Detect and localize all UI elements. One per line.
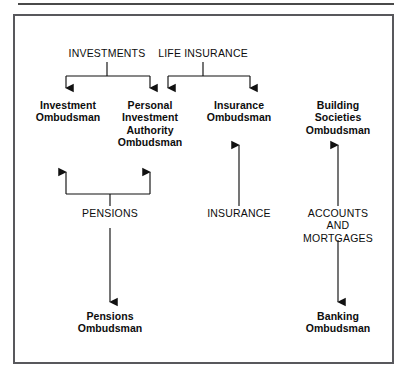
connector-pensions-branch-up — [66, 172, 150, 206]
node-investment-ombudsman: Investment Ombudsman — [36, 99, 101, 124]
node-insurance-ombudsman: Insurance Ombudsman — [207, 99, 272, 124]
category-label-insurance: INSURANCE — [207, 207, 271, 219]
category-label-life-insurance: LIFE INSURANCE — [158, 47, 248, 59]
connector-life-insurance-branch — [168, 62, 250, 88]
node-banking-ombudsman: Banking Ombudsman — [306, 310, 371, 335]
node-building-societies-ombudsman: Building Societies Ombudsman — [301, 99, 375, 136]
category-label-accounts-and-mortgages: ACCOUNTS AND MORTGAGES — [301, 207, 375, 244]
node-personal-investment-authority-ombudsman: Personal Investment Authority Ombudsman — [118, 99, 183, 149]
connector-investments-branch — [66, 62, 150, 88]
category-label-pensions: PENSIONS — [82, 207, 138, 219]
category-label-investments: INVESTMENTS — [69, 47, 146, 59]
node-pensions-ombudsman: Pensions Ombudsman — [78, 310, 143, 335]
